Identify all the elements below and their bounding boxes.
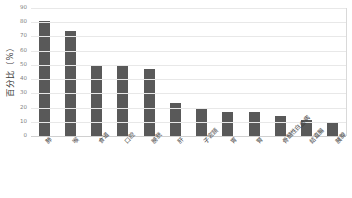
x-axis-label: 胃 xyxy=(229,136,237,144)
bar[interactable] xyxy=(91,65,102,136)
y-axis-tick-label: 50 xyxy=(20,62,27,68)
gridline xyxy=(31,36,346,37)
y-axis-tick-label: 20 xyxy=(20,105,27,111)
bar[interactable] xyxy=(275,116,286,136)
y-axis-tick-label: 10 xyxy=(20,119,27,125)
bar-slot xyxy=(162,8,188,136)
y-axis-ticks: 0102030405060708090 xyxy=(15,8,29,136)
y-axis-title-text: 百分比（%） xyxy=(3,43,15,96)
bar-chart: 百分比（%） 0102030405060708090 肺喉食道口腔膀胱肝子宮頸胃… xyxy=(0,0,352,198)
y-axis-tick-label: 60 xyxy=(20,48,27,54)
x-axis-label: 喉 xyxy=(71,136,79,144)
bar[interactable] xyxy=(117,66,128,136)
bar-slot xyxy=(267,8,293,136)
bar-slot xyxy=(189,8,215,136)
x-axis-label: 腎 xyxy=(255,136,263,144)
y-axis-tick-label: 40 xyxy=(20,76,27,82)
y-axis-tick-label: 0 xyxy=(24,133,28,139)
bar[interactable] xyxy=(222,112,233,136)
gridline xyxy=(31,51,346,52)
plot-area xyxy=(31,8,347,136)
y-axis-tick-label: 70 xyxy=(20,34,27,40)
bar-slot xyxy=(31,8,57,136)
bar-slot xyxy=(215,8,241,136)
bar-slot xyxy=(84,8,110,136)
x-axis-label: 肺 xyxy=(44,136,52,144)
bar-series xyxy=(31,8,346,136)
bar-slot xyxy=(241,8,267,136)
gridline xyxy=(31,93,346,94)
gridline xyxy=(31,65,346,66)
bar-slot xyxy=(110,8,136,136)
gridline xyxy=(31,8,346,9)
x-axis-label: 肝 xyxy=(176,136,184,144)
y-axis-tick-label: 80 xyxy=(20,19,27,25)
y-axis-tick-label: 90 xyxy=(20,5,27,11)
bar[interactable] xyxy=(327,122,338,136)
y-axis-tick-label: 30 xyxy=(20,91,27,97)
gridline xyxy=(31,108,346,109)
bar-slot xyxy=(136,8,162,136)
bar-slot xyxy=(320,8,346,136)
bar-slot xyxy=(57,8,83,136)
gridline xyxy=(31,22,346,23)
bar[interactable] xyxy=(65,31,76,136)
gridline xyxy=(31,79,346,80)
bar[interactable] xyxy=(249,112,260,136)
x-axis-labels: 肺喉食道口腔膀胱肝子宮頸胃腎骨髓性白血病結直腸胰腺 xyxy=(31,137,347,195)
